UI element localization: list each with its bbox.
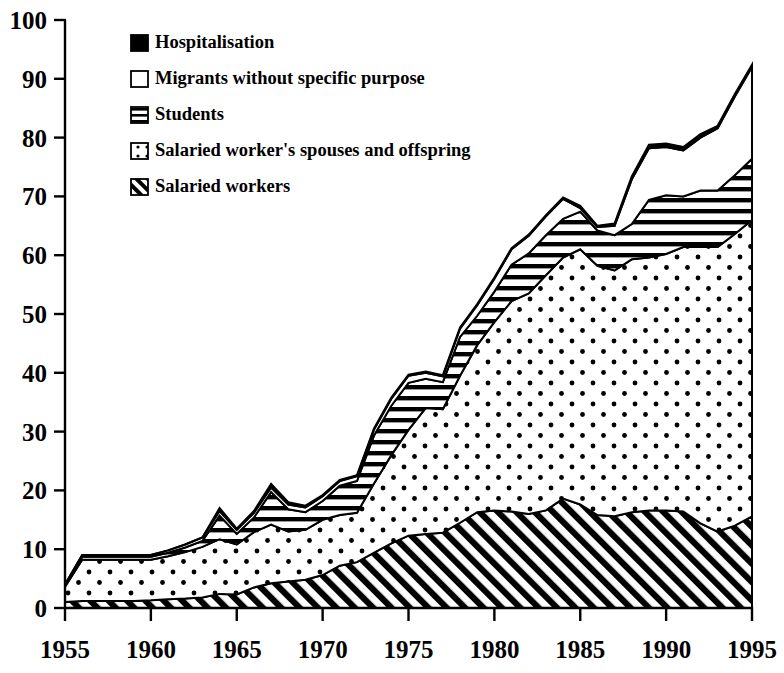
x-axis-tick-label: 1965 bbox=[212, 636, 262, 663]
x-axis-tick-label: 1970 bbox=[298, 636, 348, 663]
y-axis-tick-label: 100 bbox=[10, 7, 48, 34]
y-axis-tick-label: 80 bbox=[22, 125, 47, 152]
legend-label: Salaried worker's spouses and offspring bbox=[155, 140, 471, 160]
legend-item: Migrants without specific purpose bbox=[131, 68, 425, 88]
y-axis-tick-label: 60 bbox=[22, 242, 47, 269]
y-axis-tick-label: 20 bbox=[22, 477, 47, 504]
legend-label: Salaried workers bbox=[155, 176, 290, 196]
x-axis-tick-labels: 195519601965197019751980198519901995 bbox=[40, 636, 777, 663]
chart-legend: HospitalisationMigrants without specific… bbox=[131, 32, 471, 196]
legend-swatch-horizontal-lines bbox=[131, 107, 148, 123]
legend-label: Migrants without specific purpose bbox=[155, 68, 425, 88]
legend-swatch-diagonal-hatch bbox=[131, 179, 148, 195]
y-axis-tick-label: 90 bbox=[22, 66, 47, 93]
y-axis-tick-label: 70 bbox=[22, 183, 47, 210]
legend-item: Salaried workers bbox=[131, 176, 290, 196]
x-axis-tick-label: 1985 bbox=[555, 636, 605, 663]
legend-swatch-white bbox=[131, 71, 148, 87]
legend-swatch-dotted bbox=[131, 143, 148, 159]
x-axis-tick-label: 1955 bbox=[40, 636, 90, 663]
x-axis-tick-label: 1960 bbox=[126, 636, 176, 663]
legend-swatch-solid-black bbox=[131, 35, 148, 51]
y-axis-tick-label: 0 bbox=[35, 595, 48, 622]
legend-item: Hospitalisation bbox=[131, 32, 275, 52]
x-axis-tick-label: 1980 bbox=[469, 636, 519, 663]
y-axis-tick-label: 10 bbox=[22, 536, 47, 563]
legend-item: Salaried worker's spouses and offspring bbox=[131, 140, 471, 160]
stacked-area-chart: 0102030405060708090100 19551960196519701… bbox=[0, 0, 784, 673]
legend-label: Hospitalisation bbox=[155, 32, 275, 52]
x-axis-tick-label: 1995 bbox=[727, 636, 777, 663]
legend-item: Students bbox=[131, 104, 224, 124]
legend-label: Students bbox=[155, 104, 224, 124]
y-axis-tick-label: 30 bbox=[22, 419, 47, 446]
x-axis-tick-label: 1975 bbox=[384, 636, 434, 663]
chart-canvas: 0102030405060708090100 19551960196519701… bbox=[0, 0, 784, 673]
x-axis-tick-label: 1990 bbox=[641, 636, 691, 663]
y-axis-tick-label: 40 bbox=[22, 360, 47, 387]
y-axis-tick-labels: 0102030405060708090100 bbox=[10, 7, 48, 622]
y-axis-tick-label: 50 bbox=[22, 301, 47, 328]
